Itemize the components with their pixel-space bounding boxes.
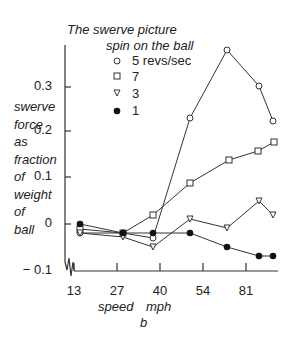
series-3-line — [80, 201, 273, 247]
legend-label: 5 revs/sec — [132, 53, 191, 68]
legend-label: 7 — [132, 69, 139, 84]
series-7-line — [80, 142, 274, 233]
series-1-markers — [77, 221, 277, 260]
series-5-line — [80, 50, 273, 238]
legend-markers — [114, 58, 121, 114]
legend-label: 1 — [132, 103, 139, 118]
series-7-markers — [77, 139, 277, 236]
axes — [65, 45, 278, 276]
legend-label: 3 — [132, 86, 139, 101]
series-3-markers — [77, 198, 276, 250]
chart-plot — [0, 0, 300, 344]
